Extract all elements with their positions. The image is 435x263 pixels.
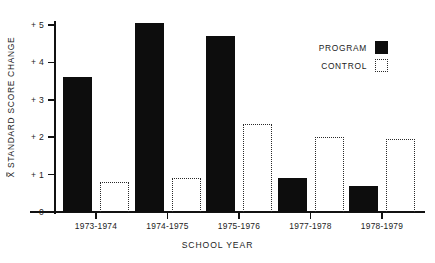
x-axis-tick — [310, 212, 312, 219]
bar-control — [243, 124, 272, 212]
legend-item-program: PROGRAM — [296, 40, 388, 55]
legend-swatch-program-icon — [375, 41, 388, 54]
bar-program — [349, 186, 378, 212]
x-axis-tick-label: 1973-1974 — [75, 221, 117, 231]
bar-control — [172, 178, 201, 212]
legend-label-control: CONTROL — [321, 61, 367, 71]
x-axis-tick — [381, 212, 383, 219]
x-axis-title: SCHOOL YEAR — [0, 240, 435, 250]
bar-chart-figure: X STANDARD SCORE CHANGE 0+ 1+ 2+ 3+ 4+ 5… — [0, 0, 435, 263]
x-axis-tick-label: 1975-1976 — [218, 221, 260, 231]
x-axis-tick-label: 1974-1975 — [146, 221, 188, 231]
bar-control — [100, 182, 129, 212]
bar-control — [386, 139, 415, 212]
legend-item-control: CONTROL — [296, 58, 388, 73]
legend-swatch-control-icon — [375, 59, 388, 72]
bar-program — [278, 178, 307, 212]
legend-label-program: PROGRAM — [319, 43, 367, 53]
x-axis-tick — [95, 212, 97, 219]
bars-layer — [0, 0, 435, 212]
x-axis-tick-label: 1977-1978 — [289, 221, 331, 231]
x-axis-tick — [167, 212, 169, 219]
x-axis-tick-label: 1978-1979 — [361, 221, 403, 231]
bar-program — [63, 77, 92, 212]
x-axis-tick — [238, 212, 240, 219]
bar-control — [315, 137, 344, 212]
chart-legend: PROGRAM CONTROL — [296, 40, 388, 76]
bar-program — [135, 23, 164, 212]
bar-program — [206, 36, 235, 212]
